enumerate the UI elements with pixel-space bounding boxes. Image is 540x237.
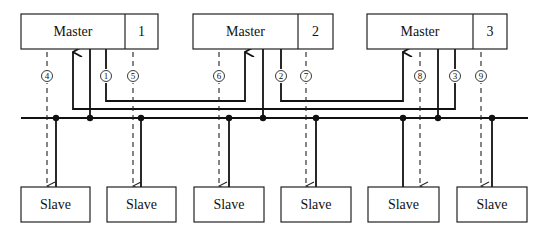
step-marker-text: 3 [453, 71, 458, 81]
master-id: 1 [138, 24, 145, 39]
slave-node-2: Slave [107, 187, 176, 222]
step-marker-text: 5 [131, 71, 136, 81]
master-slave-diagram: 1 2 3 4 5 6 7 8 9 [0, 0, 540, 237]
step-marker-7: 7 [300, 69, 312, 83]
step-marker-9: 9 [475, 69, 487, 83]
junction-dot [53, 115, 59, 121]
junction-dot [489, 115, 495, 121]
slave-label: Slave [300, 197, 331, 212]
junction-dot [435, 115, 441, 121]
junction-dot [87, 115, 93, 121]
step-marker-5: 5 [127, 69, 139, 83]
junction-dot [313, 115, 319, 121]
step-marker-4: 4 [41, 69, 53, 83]
step-marker-1: 1 [100, 69, 112, 83]
step-marker-6: 6 [213, 69, 225, 83]
slave-node-3: Slave [194, 187, 264, 222]
master-node-1: Master 1 [21, 14, 158, 49]
step-marker-text: 2 [279, 71, 284, 81]
slave-node-6: Slave [457, 187, 527, 222]
master-id: 3 [487, 24, 494, 39]
step-marker-text: 7 [304, 71, 309, 81]
step-marker-2: 2 [275, 69, 287, 83]
slave-label: Slave [388, 197, 419, 212]
junction-dot [226, 115, 232, 121]
slave-label: Slave [126, 197, 157, 212]
junction-dot [138, 115, 144, 121]
master-node-3: Master 3 [367, 14, 507, 49]
step-marker-8: 8 [414, 69, 426, 83]
slave-node-1: Slave [21, 187, 90, 222]
step-marker-3: 3 [449, 69, 461, 83]
master-label: Master [401, 24, 440, 39]
slave-label: Slave [476, 197, 507, 212]
master-label: Master [226, 24, 265, 39]
step-marker-text: 6 [217, 71, 222, 81]
step-marker-text: 1 [104, 71, 109, 81]
step-marker-text: 8 [418, 71, 423, 81]
master-label: Master [54, 24, 93, 39]
step-marker-text: 9 [479, 71, 484, 81]
slave-label: Slave [213, 197, 244, 212]
junction-dot [260, 115, 266, 121]
junction-dot [400, 115, 406, 121]
master-id: 2 [312, 24, 319, 39]
master-node-2: Master 2 [193, 14, 333, 49]
step-marker-text: 4 [45, 71, 50, 81]
connection-master2-to-master3 [281, 49, 403, 101]
slave-node-4: Slave [281, 187, 351, 222]
slave-node-5: Slave [368, 187, 439, 222]
slave-label: Slave [40, 197, 71, 212]
